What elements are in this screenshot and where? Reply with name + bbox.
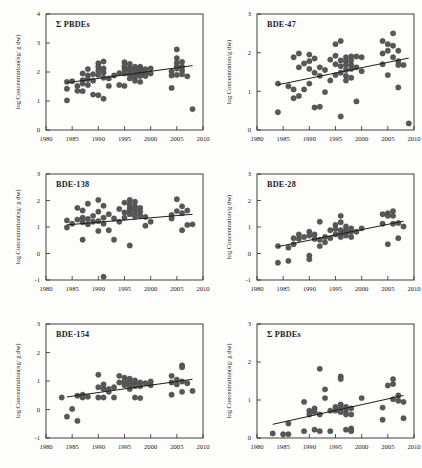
panel-title: Σ PBDEs [267, 330, 301, 339]
panel-title: BDE-28 [267, 180, 296, 189]
data-point [322, 240, 327, 245]
data-point [333, 53, 338, 58]
data-point [75, 205, 80, 210]
data-point [338, 234, 343, 239]
data-point [179, 59, 184, 64]
data-point [174, 382, 179, 387]
data-point [317, 428, 322, 433]
x-tick-label: 1980 [250, 285, 264, 292]
data-point [328, 428, 333, 433]
y-tick-label: -1 [246, 276, 252, 283]
data-point [143, 73, 148, 78]
x-tick-label: 2010 [407, 135, 421, 142]
data-point [122, 210, 127, 215]
x-tick-label: 1985 [277, 443, 291, 450]
data-point [385, 48, 390, 53]
data-point [396, 62, 401, 67]
y-tick-label: 3 [37, 39, 41, 46]
chart-panel-6: 19801985199019952000200520100123log Conc… [211, 310, 422, 468]
data-point [122, 83, 127, 88]
data-point [179, 365, 184, 370]
x-tick-label: 1990 [92, 285, 106, 292]
data-point [64, 225, 69, 230]
data-point [317, 243, 322, 248]
data-point [380, 417, 385, 422]
data-point [270, 431, 275, 436]
data-points [270, 366, 406, 437]
data-point [185, 74, 190, 79]
data-point [291, 55, 296, 60]
y-axis-title: log Concentration/g dw) [225, 195, 233, 259]
data-point [328, 227, 333, 232]
x-tick-label: 1990 [92, 443, 106, 450]
data-points [59, 363, 195, 424]
data-point [396, 235, 401, 240]
y-tick-label: 2 [248, 49, 251, 56]
x-tick-label: 1995 [118, 135, 132, 142]
y-tick-label: 2 [248, 358, 251, 365]
data-point [111, 385, 116, 390]
data-point [322, 67, 327, 72]
data-point [406, 121, 411, 126]
data-point [359, 55, 364, 60]
data-point [401, 62, 406, 67]
data-point [280, 432, 285, 437]
x-tick-label: 1995 [329, 443, 343, 450]
x-tick-label: 2000 [355, 285, 369, 292]
x-tick-label: 1980 [39, 285, 53, 292]
y-tick-label: 0 [37, 406, 41, 413]
data-point [354, 54, 359, 59]
data-point [322, 387, 327, 392]
data-point [385, 41, 390, 46]
x-tick-label: 2000 [355, 135, 369, 142]
data-point [101, 70, 106, 75]
data-point [338, 38, 343, 43]
data-point [401, 399, 406, 404]
data-point [390, 55, 395, 60]
data-point [390, 381, 395, 386]
data-point [138, 395, 143, 400]
plot-frame [257, 324, 414, 438]
data-point [385, 242, 390, 247]
data-point [385, 213, 390, 218]
data-point [101, 96, 106, 101]
y-tick-label: 1 [37, 97, 40, 104]
data-point [132, 78, 137, 83]
data-point [96, 385, 101, 390]
y-tick-label: 3 [37, 170, 41, 177]
data-point [117, 206, 122, 211]
data-point [190, 222, 195, 227]
data-point [106, 83, 111, 88]
data-point [169, 392, 174, 397]
data-point [307, 233, 312, 238]
data-point [390, 31, 395, 36]
data-point [343, 427, 348, 432]
panel-title: BDE-138 [56, 180, 89, 189]
data-point [85, 201, 90, 206]
x-tick-label: 2010 [196, 135, 210, 142]
data-point [101, 395, 106, 400]
y-tick-label: 3 [37, 320, 41, 327]
data-point [75, 217, 80, 222]
data-point [127, 386, 132, 391]
x-tick-label: 2005 [381, 443, 395, 450]
data-point [101, 274, 106, 279]
x-tick-label: 2005 [170, 135, 184, 142]
data-point [64, 79, 69, 84]
chart-panel-2: 19801985199019952000200520100123log Conc… [211, 0, 422, 160]
data-points [275, 31, 411, 127]
y-tick-label: 1 [248, 396, 251, 403]
data-point [122, 383, 127, 388]
data-point [333, 226, 338, 231]
data-point [296, 65, 301, 70]
data-point [401, 416, 406, 421]
data-point [101, 59, 106, 64]
data-point [179, 204, 184, 209]
x-tick-label: 1990 [92, 135, 106, 142]
data-point [80, 88, 85, 93]
x-tick-label: 2000 [355, 443, 369, 450]
data-point [301, 234, 306, 239]
data-point [96, 93, 101, 98]
data-point [122, 200, 127, 205]
data-point [148, 66, 153, 71]
